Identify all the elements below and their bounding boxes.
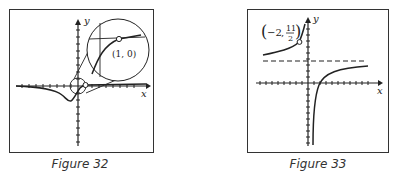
figure-33-y-label: y <box>312 13 319 24</box>
figure-33: x y ( −2 , 11 2 <box>220 0 395 179</box>
figure-33-x-label: x <box>377 85 383 96</box>
figure-33-point-label: ( −2 , 11 2 ) <box>261 22 301 43</box>
svg-text:2: 2 <box>288 34 293 43</box>
figure-32-graph: x y (1, 0) <box>0 0 160 160</box>
figure-32-y-label: y <box>83 15 90 26</box>
figure-32-point-label: (1, 0) <box>112 49 136 59</box>
svg-text:): ) <box>295 22 301 41</box>
figure-32: x y (1, 0) Figure 32 <box>0 0 160 179</box>
svg-text:−2: −2 <box>267 27 282 38</box>
figure-33-graph: x y ( −2 , 11 2 <box>220 0 395 160</box>
figure-32-caption: Figure 32 <box>40 157 120 171</box>
figure-32-x-label: x <box>141 88 147 99</box>
figure-33-caption: Figure 33 <box>278 157 358 171</box>
svg-text:,: , <box>281 27 284 38</box>
